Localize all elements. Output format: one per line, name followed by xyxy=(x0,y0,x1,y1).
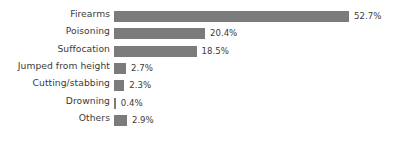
bar-row: Jumped from height2.7% xyxy=(0,60,398,77)
bar-row: Poisoning20.4% xyxy=(0,25,398,42)
bar-group: 52.7% xyxy=(114,8,381,25)
bar-row: Others2.9% xyxy=(0,112,398,129)
bar-row: Cutting/stabbing2.3% xyxy=(0,77,398,94)
bar-value-label: 2.9% xyxy=(132,115,154,126)
category-label: Cutting/stabbing xyxy=(0,77,110,88)
bar xyxy=(114,46,197,57)
bar-value-label: 2.3% xyxy=(129,80,151,91)
bar-group: 18.5% xyxy=(114,43,229,60)
category-label: Suffocation xyxy=(0,43,110,54)
bar-group: 2.3% xyxy=(114,77,151,94)
bar-chart: Firearms52.7%Poisoning20.4%Suffocation18… xyxy=(0,0,398,146)
bar-row: Suffocation18.5% xyxy=(0,43,398,60)
bar-group: 20.4% xyxy=(114,25,237,42)
bar-group: 0.4% xyxy=(114,95,143,112)
bar xyxy=(114,11,349,22)
bar-value-label: 52.7% xyxy=(354,11,381,22)
category-label: Poisoning xyxy=(0,25,110,36)
bar-group: 2.7% xyxy=(114,60,153,77)
category-label: Firearms xyxy=(0,8,110,19)
bar-row: Drowning0.4% xyxy=(0,95,398,112)
bar-value-label: 0.4% xyxy=(121,98,143,109)
category-label: Jumped from height xyxy=(0,60,110,71)
bar-value-label: 18.5% xyxy=(202,46,229,57)
bar-value-label: 20.4% xyxy=(210,28,237,39)
bar xyxy=(114,98,116,109)
plot-area: Firearms52.7%Poisoning20.4%Suffocation18… xyxy=(0,0,398,146)
bar xyxy=(114,115,127,126)
bar-row: Firearms52.7% xyxy=(0,8,398,25)
bar xyxy=(114,63,126,74)
category-label: Drowning xyxy=(0,95,110,106)
bar-group: 2.9% xyxy=(114,112,154,129)
bar xyxy=(114,80,124,91)
bar xyxy=(114,28,205,39)
bar-value-label: 2.7% xyxy=(131,63,153,74)
category-label: Others xyxy=(0,112,110,123)
